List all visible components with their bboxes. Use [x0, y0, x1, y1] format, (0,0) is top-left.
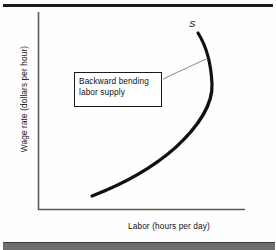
supply-curve-label: S	[189, 18, 195, 29]
callout-line-1: Backward bending	[79, 76, 161, 87]
x-axis-label: Labor (hours per day)	[128, 221, 210, 231]
figure-container: Backward bending labor supply Wage rate …	[0, 0, 276, 250]
plot-area	[0, 0, 276, 250]
supply-curve	[92, 33, 212, 196]
callout-leader-line	[163, 59, 206, 79]
callout-line-2: labor supply	[79, 87, 161, 98]
y-axis-label: Wage rate (dollars per hour)	[19, 34, 29, 164]
backward-bending-callout-box: Backward bending labor supply	[74, 72, 162, 107]
bottom-gray-band	[3, 242, 275, 250]
